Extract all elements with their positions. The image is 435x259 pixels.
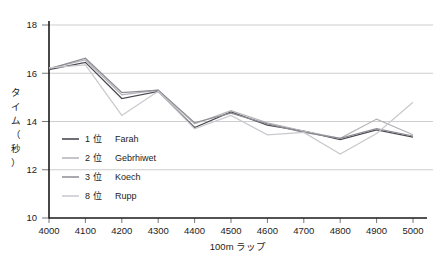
series-line-gebrhiwet [49,60,413,138]
legend-rank-rupp: 8 位 [85,190,102,201]
y-tick-label: 18 [26,19,37,30]
series-line-koech [49,58,413,138]
x-tick-label: 4700 [293,225,314,236]
x-axis-title: 100m ラップ [210,241,266,252]
y-axis-title: タイム（秒） [11,87,21,168]
x-tick-label: 4000 [38,225,59,236]
y-axis-title-char: ） [11,157,21,168]
y-tick-label: 14 [26,116,37,127]
legend-athlete-koech: Koech [115,172,141,182]
x-tick-label: 4500 [220,225,241,236]
x-tick-label: 4300 [148,225,169,236]
y-tick-label: 16 [26,68,37,79]
y-axis-title-char: イ [11,101,21,112]
series-line-farah [49,62,413,139]
y-axis-title-char: ム [11,115,21,126]
y-axis-title-char: （ [11,129,21,140]
y-axis-title-char: タ [11,87,21,98]
legend-rank-koech: 3 位 [85,171,102,182]
x-tick-label: 4200 [111,225,132,236]
legend-rank-gebrhiwet: 2 位 [85,152,102,163]
chart-canvas: 1012141618 40004100420043004400450046004… [0,0,435,259]
legend-athlete-farah: Farah [115,134,139,144]
legend-rank-farah: 1 位 [85,133,102,144]
y-axis-tick-labels: 1012141618 [26,19,37,223]
x-tick-label: 4100 [75,225,96,236]
x-tick-label: 5000 [402,225,423,236]
legend-athlete-rupp: Rupp [115,191,137,201]
line-chart-figure: 1012141618 40004100420043004400450046004… [0,0,435,259]
gridlines-group [49,25,433,170]
x-tick-label: 4600 [257,225,278,236]
x-axis-tick-labels: 4000410042004300440045004600470048004900… [38,225,423,236]
x-tick-label: 4400 [184,225,205,236]
y-tick-label: 10 [26,212,37,223]
y-axis-tick-marks [42,25,49,218]
legend-athlete-gebrhiwet: Gebrhiwet [115,153,157,163]
y-tick-label: 12 [26,164,37,175]
x-tick-label: 4900 [366,225,387,236]
legend: 1 位Farah2 位Gebrhiwet3 位Koech8 位Rupp [62,133,157,201]
y-axis-title-char: 秒 [11,143,21,154]
series-group [49,58,413,154]
x-tick-label: 4800 [330,225,351,236]
